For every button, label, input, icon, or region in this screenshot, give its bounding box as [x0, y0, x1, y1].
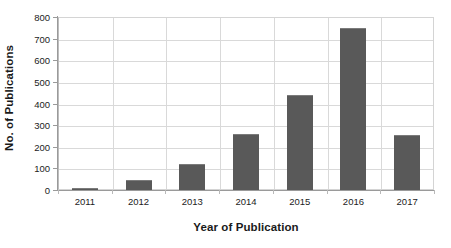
- bar: [233, 134, 259, 190]
- bar: [394, 135, 420, 190]
- y-axis-tick-mark: [53, 60, 58, 61]
- x-axis-tick-mark: [58, 190, 59, 194]
- x-axis-tick-label: 2013: [182, 196, 203, 207]
- x-axis-tick-label: 2015: [289, 196, 310, 207]
- x-axis-tick-label: 2014: [235, 196, 256, 207]
- publications-by-year-bar-chart: No. of Publications 01002003004005006007…: [0, 0, 451, 248]
- y-axis-tick-label: 0: [45, 185, 50, 196]
- bar: [287, 95, 313, 190]
- bar: [340, 28, 366, 190]
- y-axis-tick-mark: [53, 168, 58, 169]
- y-axis-tick-label: 100: [34, 163, 50, 174]
- y-axis-tick-mark: [53, 147, 58, 148]
- y-axis-tick-label: 300: [34, 120, 50, 131]
- y-axis-tick-mark: [53, 82, 58, 83]
- y-axis-tick-labels: 0100200300400500600700800: [18, 17, 54, 190]
- x-axis-tick-label: 2011: [75, 196, 95, 207]
- x-axis-tick-mark: [327, 190, 328, 194]
- x-axis-tick-mark: [434, 190, 435, 194]
- bar: [126, 180, 152, 190]
- y-axis-tick-label: 600: [34, 55, 50, 66]
- x-axis-tick-labels: 2011201220132014201520162017: [58, 196, 434, 212]
- x-axis-tick-label: 2017: [397, 196, 418, 207]
- y-axis-tick-label: 200: [34, 141, 50, 152]
- y-axis-tick-mark: [53, 39, 58, 40]
- x-axis-tick-label: 2012: [128, 196, 149, 207]
- x-axis-tick-label: 2016: [343, 196, 364, 207]
- y-axis-tick-mark: [53, 104, 58, 105]
- x-axis-tick-mark: [273, 190, 274, 194]
- y-axis-tick-label: 500: [34, 76, 50, 87]
- y-axis-title: No. of Publications: [0, 0, 18, 196]
- x-axis-title: Year of Publication: [58, 221, 434, 233]
- bar-series-no-of-publications: [58, 17, 434, 190]
- y-axis-tick-mark: [53, 17, 58, 18]
- y-axis-tick-label: 400: [34, 98, 50, 109]
- x-axis-tick-mark: [112, 190, 113, 194]
- y-axis-tick-label: 700: [34, 33, 50, 44]
- bar: [72, 188, 98, 190]
- x-axis-tick-mark: [219, 190, 220, 194]
- y-axis-title-label: No. of Publications: [3, 45, 15, 151]
- y-axis-tick-mark: [53, 125, 58, 126]
- x-axis-tick-mark: [165, 190, 166, 194]
- bar: [179, 164, 205, 190]
- x-axis-tick-mark: [380, 190, 381, 194]
- y-axis-tick-label: 800: [34, 12, 50, 23]
